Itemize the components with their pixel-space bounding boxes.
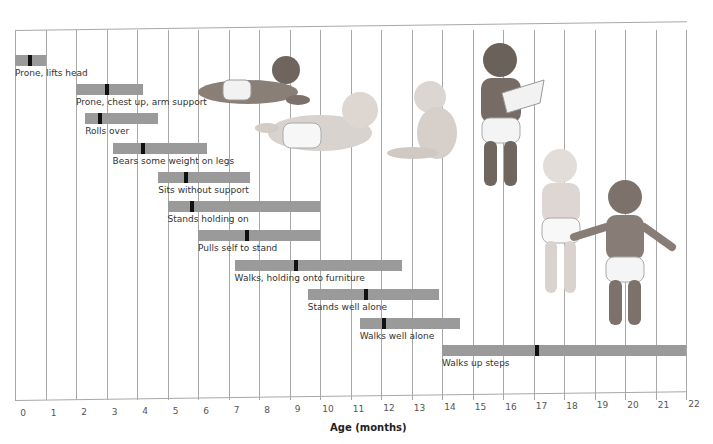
x-tick-label: 2 xyxy=(74,407,94,417)
x-tick-label: 17 xyxy=(532,401,552,411)
x-tick-label: 19 xyxy=(593,400,613,410)
x-axis-title: Age (months) xyxy=(330,422,407,433)
x-tick-label: 6 xyxy=(196,406,216,416)
x-tick-label: 8 xyxy=(257,405,277,415)
median-marker xyxy=(364,289,368,300)
x-tick-label: 7 xyxy=(227,405,247,415)
milestone-bar xyxy=(113,143,208,154)
median-marker xyxy=(184,172,188,183)
milestone-bar xyxy=(76,84,143,95)
milestone-label: Prone, lifts head xyxy=(15,68,88,78)
grid-line xyxy=(686,30,687,400)
x-tick-label: 21 xyxy=(654,400,674,410)
milestone-bar xyxy=(158,172,250,183)
x-tick-label: 9 xyxy=(288,404,308,414)
x-tick-label: 12 xyxy=(379,403,399,413)
median-marker xyxy=(98,113,102,124)
baby-rolling-illustration xyxy=(255,88,390,163)
milestone-bar xyxy=(442,345,686,356)
x-tick-label: 20 xyxy=(623,400,643,410)
median-marker xyxy=(190,201,194,212)
median-marker xyxy=(535,345,539,356)
median-marker xyxy=(294,260,298,271)
grid-line xyxy=(351,30,352,400)
x-tick-label: 3 xyxy=(105,407,125,417)
milestone-bar xyxy=(15,55,46,66)
x-tick-label: 4 xyxy=(135,406,155,416)
milestone-label: Walks, holding onto furniture xyxy=(235,273,365,283)
x-tick-label: 5 xyxy=(166,406,186,416)
x-tick-label: 0 xyxy=(13,408,33,418)
x-tick-label: 18 xyxy=(562,401,582,411)
milestone-label: Bears some weight on legs xyxy=(113,156,235,166)
baby-sitting-illustration xyxy=(385,75,465,165)
milestone-bar xyxy=(168,201,321,212)
milestone-label: Rolls over xyxy=(85,126,129,136)
x-tick-label: 10 xyxy=(318,404,338,414)
milestone-bar xyxy=(198,230,320,241)
milestone-label: Prone, chest up, arm support xyxy=(76,97,207,107)
motor-milestones-chart: 012345678910111213141516171819202122 Age… xyxy=(0,0,713,444)
grid-line xyxy=(381,30,382,400)
x-tick-label: 13 xyxy=(410,403,430,413)
x-tick-label: 1 xyxy=(44,408,64,418)
x-tick-label: 22 xyxy=(684,399,704,409)
milestone-bar xyxy=(235,260,403,271)
grid-line xyxy=(320,30,321,400)
milestone-label: Walks up steps xyxy=(442,358,510,368)
milestone-label: Stands holding on xyxy=(168,214,249,224)
x-tick-label: 16 xyxy=(501,402,521,412)
milestone-bar xyxy=(308,289,439,300)
median-marker xyxy=(28,55,32,66)
milestone-label: Stands well alone xyxy=(308,302,387,312)
median-marker xyxy=(105,84,109,95)
median-marker xyxy=(382,318,386,329)
grid-line xyxy=(15,30,16,400)
baby-walking-illustration xyxy=(570,175,680,330)
grid-line xyxy=(46,30,47,400)
x-tick-label: 15 xyxy=(471,402,491,412)
milestone-bar xyxy=(360,318,461,329)
milestone-label: Pulls self to stand xyxy=(198,243,277,253)
milestone-label: Walks well alone xyxy=(360,331,435,341)
median-marker xyxy=(245,230,249,241)
milestone-label: Sits without support xyxy=(158,185,249,195)
milestone-bar xyxy=(85,113,158,124)
x-tick-label: 14 xyxy=(440,402,460,412)
x-tick-label: 11 xyxy=(349,404,369,414)
median-marker xyxy=(141,143,145,154)
